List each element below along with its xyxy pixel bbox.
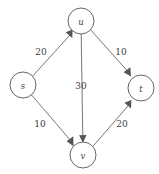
node-t-label: t — [139, 84, 143, 94]
node-s: s — [10, 72, 36, 98]
node-s-label: s — [21, 81, 26, 91]
edge-label-s-to-u: 20 — [35, 47, 47, 57]
edge-s-to-u-arrowhead — [66, 30, 73, 39]
node-v: v — [70, 142, 96, 168]
node-t: t — [128, 75, 154, 101]
node-u-label: u — [78, 17, 83, 27]
edge-label-u-to-v: 30 — [75, 81, 87, 91]
graph-svg-canvas: 20 10 30 10 20 s u v t — [0, 0, 159, 174]
edge-label-v-to-t: 20 — [116, 119, 128, 129]
node-u: u — [68, 8, 94, 34]
flow-network-diagram: 20 10 30 10 20 s u v t — [0, 0, 159, 174]
node-v-label: v — [81, 151, 86, 161]
edge-v-to-t-arrowhead — [124, 100, 131, 109]
edge-label-u-to-t: 10 — [115, 47, 127, 57]
edge-label-s-to-v: 10 — [34, 119, 46, 129]
